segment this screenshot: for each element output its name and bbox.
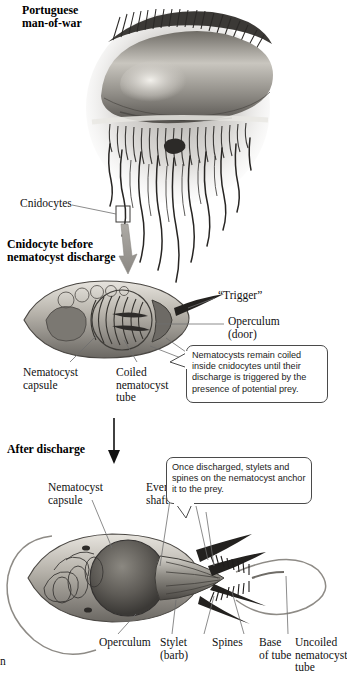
label-nematocyst-capsule-1: Nematocyst capsule — [23, 366, 78, 391]
label-base-of-tube: Base of tube — [259, 636, 291, 661]
label-trigger: “Trigger” — [218, 289, 262, 302]
section-arrow — [108, 418, 120, 464]
cut-off-character: n — [0, 655, 6, 667]
label-uncoiled-nematocyst-tube: Uncoiled nematocyst tube — [295, 636, 347, 674]
gray-arrow-to-cnidocyte — [119, 224, 137, 274]
label-operculum-door: Operculum (door) — [228, 315, 280, 340]
callout-anchor: Once discharged, stylets and spines on t… — [166, 457, 312, 504]
callout-coiled: Nematocysts remain coiled inside cnidocy… — [186, 345, 328, 403]
label-nematocyst-capsule-2: Nematocyst capsule — [48, 481, 103, 506]
organism-heading: Portuguese man-of-war — [22, 4, 82, 30]
label-operculum: Operculum — [99, 636, 151, 649]
callout-anchor-tail — [172, 502, 196, 520]
label-spines: Spines — [212, 636, 243, 649]
label-stylet-barb: Stylet (barb) — [160, 636, 188, 661]
before-discharge-heading: Cnidocyte before nematocyst discharge — [7, 238, 115, 264]
after-discharge-heading: After discharge — [7, 443, 85, 456]
label-cnidocytes: Cnidocytes — [20, 197, 72, 210]
cnidocyte-highlight-box — [116, 206, 130, 222]
callout-coiled-tail — [168, 348, 190, 372]
label-coiled-nematocyst-tube: Coiled nematocyst tube — [116, 366, 168, 404]
